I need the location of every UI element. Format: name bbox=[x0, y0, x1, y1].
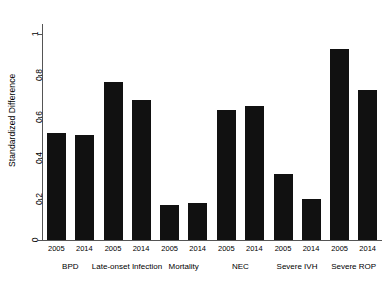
x-tick-label: 2005 bbox=[105, 244, 122, 253]
x-tick-label: 2005 bbox=[48, 244, 65, 253]
x-tick-label: 2005 bbox=[161, 244, 178, 253]
bar bbox=[358, 90, 377, 240]
bar bbox=[75, 135, 94, 240]
y-tick-label: 0.8 bbox=[35, 70, 44, 82]
group-label: BPD bbox=[62, 262, 78, 271]
x-tick-label: 2014 bbox=[76, 244, 93, 253]
x-tick-label: 2005 bbox=[331, 244, 348, 253]
x-tick-label: 2014 bbox=[246, 244, 263, 253]
bar bbox=[160, 205, 179, 240]
x-tick-label: 2014 bbox=[303, 244, 320, 253]
plot-area: 00.20.40.60.81 2005201420052014200520142… bbox=[42, 24, 382, 240]
group-label: NEC bbox=[232, 262, 249, 271]
y-tick-label: 0 bbox=[31, 238, 40, 243]
y-tick-label: 0.2 bbox=[35, 193, 44, 205]
y-axis-title: Standardized Difference bbox=[4, 0, 20, 240]
bar bbox=[47, 133, 66, 240]
group-label: Mortality bbox=[169, 262, 199, 271]
x-tick-label: 2014 bbox=[133, 244, 150, 253]
bar bbox=[188, 203, 207, 240]
x-axis-line bbox=[42, 240, 382, 241]
bar bbox=[330, 49, 349, 240]
group-label: Severe IVH bbox=[277, 262, 318, 271]
group-label: Late-onset Infection bbox=[92, 262, 162, 271]
x-tick-label: 2005 bbox=[218, 244, 235, 253]
x-tick-label: 2014 bbox=[189, 244, 206, 253]
group-label: Severe ROP bbox=[331, 262, 376, 271]
bar-chart-figure: Standardized Difference 00.20.40.60.81 2… bbox=[0, 0, 389, 290]
bar bbox=[245, 106, 264, 240]
x-tick-label: 2005 bbox=[275, 244, 292, 253]
y-tick-label: 1 bbox=[31, 32, 40, 37]
bar bbox=[302, 199, 321, 240]
y-tick-label: 0.6 bbox=[35, 111, 44, 123]
bar bbox=[274, 174, 293, 240]
bar bbox=[132, 100, 151, 240]
y-tick-label: 0.4 bbox=[35, 152, 44, 164]
bar bbox=[217, 110, 236, 240]
y-axis-line bbox=[42, 24, 43, 240]
x-tick-label: 2014 bbox=[359, 244, 376, 253]
bar bbox=[104, 82, 123, 240]
